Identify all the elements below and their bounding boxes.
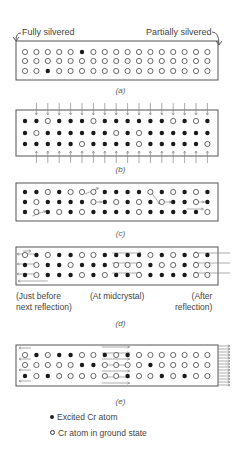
ground-atom-icon bbox=[171, 373, 176, 378]
ground-atom-icon bbox=[91, 49, 96, 54]
ground-atom-icon bbox=[136, 352, 141, 357]
excited-atom-icon bbox=[80, 200, 84, 204]
ground-atom-icon bbox=[22, 68, 27, 73]
excited-atom-icon bbox=[57, 263, 61, 267]
excited-atom-icon bbox=[23, 263, 27, 267]
ground-atom-icon bbox=[45, 352, 50, 357]
excited-atom-icon bbox=[46, 69, 50, 73]
ground-atom-icon bbox=[91, 58, 96, 63]
excited-atom-icon bbox=[194, 210, 198, 214]
ground-atom-icon bbox=[102, 49, 107, 54]
ground-atom-icon bbox=[205, 262, 210, 267]
ground-atom-icon bbox=[171, 49, 176, 54]
excited-atom-icon bbox=[194, 131, 198, 135]
excited-atom-icon bbox=[80, 131, 84, 135]
ground-atom-icon bbox=[148, 373, 153, 378]
ground-atom-icon bbox=[136, 130, 141, 135]
ground-atom-icon bbox=[34, 262, 39, 267]
excited-atom-icon bbox=[171, 273, 175, 277]
ground-atom-icon bbox=[57, 373, 62, 378]
excited-atom-icon bbox=[205, 200, 209, 204]
ground-atom-icon bbox=[193, 262, 198, 267]
ground-atom-icon bbox=[68, 362, 73, 367]
ground-atom-icon bbox=[102, 58, 107, 63]
ground-atom-icon bbox=[136, 58, 141, 63]
excited-atom-icon bbox=[148, 200, 152, 204]
excited-atom-icon bbox=[114, 190, 118, 194]
excited-atom-icon bbox=[68, 253, 72, 257]
ground-atom-icon bbox=[102, 68, 107, 73]
excited-atom-icon bbox=[57, 142, 61, 146]
ground-atom-icon bbox=[193, 118, 198, 123]
excited-atom-icon bbox=[46, 263, 50, 267]
ground-atom-icon bbox=[79, 141, 84, 146]
ground-atom-icon bbox=[193, 49, 198, 54]
excited-atom-icon bbox=[182, 263, 186, 267]
ground-atom-icon bbox=[114, 68, 119, 73]
ground-atom-icon bbox=[205, 272, 210, 277]
ground-atom-icon bbox=[205, 362, 210, 367]
excited-atom-icon bbox=[103, 190, 107, 194]
ground-atom-icon bbox=[102, 272, 107, 277]
excited-atom-icon bbox=[103, 142, 107, 146]
caption-d: (d) bbox=[0, 319, 241, 328]
excited-atom-icon bbox=[91, 210, 95, 214]
ground-atom-icon bbox=[136, 199, 141, 204]
ground-atom-icon bbox=[79, 58, 84, 63]
ground-atom-icon bbox=[205, 209, 210, 214]
excited-atom-icon bbox=[205, 253, 209, 257]
ground-atom-icon bbox=[22, 352, 27, 357]
excited-atom-icon bbox=[114, 253, 118, 257]
ground-atom-icon bbox=[159, 362, 164, 367]
excited-atom-icon bbox=[103, 210, 107, 214]
ground-atom-icon bbox=[125, 49, 130, 54]
ground-atom-icon bbox=[205, 58, 210, 63]
excited-atom-icon bbox=[148, 273, 152, 277]
ground-atom-icon bbox=[22, 58, 27, 63]
open-circle-icon bbox=[50, 430, 55, 435]
excited-atom-icon bbox=[182, 142, 186, 146]
ground-atom-icon bbox=[148, 49, 153, 54]
excited-atom-icon bbox=[171, 131, 175, 135]
ground-atom-icon bbox=[182, 68, 187, 73]
excited-atom-icon bbox=[160, 119, 164, 123]
sublabel-mid-text: (At midcrystal) bbox=[90, 291, 144, 301]
excited-atom-icon bbox=[205, 131, 209, 135]
ground-atom-icon bbox=[68, 58, 73, 63]
ground-atom-icon bbox=[68, 49, 73, 54]
ground-atom-icon bbox=[79, 352, 84, 357]
ground-atom-icon bbox=[148, 68, 153, 73]
ground-atom-icon bbox=[205, 141, 210, 146]
ground-atom-icon bbox=[22, 362, 27, 367]
ground-atom-icon bbox=[114, 352, 119, 357]
excited-atom-icon bbox=[80, 363, 84, 367]
ground-atom-icon bbox=[159, 49, 164, 54]
excited-atom-icon bbox=[103, 353, 107, 357]
ground-atom-icon bbox=[114, 362, 119, 367]
excited-atom-icon bbox=[125, 142, 129, 146]
excited-atom-icon bbox=[23, 210, 27, 214]
ground-atom-icon bbox=[193, 189, 198, 194]
excited-atom-icon bbox=[182, 119, 186, 123]
ground-atom-icon bbox=[193, 373, 198, 378]
excited-atom-icon bbox=[114, 273, 118, 277]
excited-atom-icon bbox=[205, 190, 209, 194]
ground-atom-icon bbox=[79, 373, 84, 378]
ground-atom-icon bbox=[171, 252, 176, 257]
ground-atom-icon bbox=[136, 272, 141, 277]
ground-atom-icon bbox=[79, 252, 84, 257]
excited-atom-icon bbox=[148, 210, 152, 214]
ground-atom-icon bbox=[205, 49, 210, 54]
caption-a: (a) bbox=[0, 86, 241, 95]
ground-atom-icon bbox=[171, 189, 176, 194]
ground-atom-icon bbox=[57, 209, 62, 214]
excited-atom-icon bbox=[68, 273, 72, 277]
excited-atom-icon bbox=[103, 131, 107, 135]
excited-atom-icon bbox=[125, 119, 129, 123]
ground-atom-icon bbox=[159, 58, 164, 63]
ground-atom-icon bbox=[91, 373, 96, 378]
caption-e: (e) bbox=[0, 397, 241, 406]
ground-atom-icon bbox=[148, 189, 153, 194]
excited-atom-icon bbox=[91, 273, 95, 277]
ground-atom-icon bbox=[22, 252, 27, 257]
